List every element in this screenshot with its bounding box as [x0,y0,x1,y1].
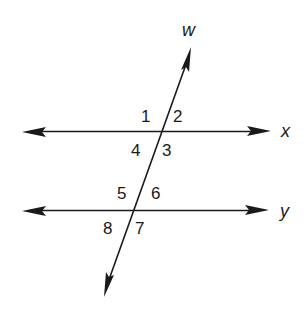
label-x: x [280,121,291,141]
angle-label-2: 2 [173,107,182,126]
line-y [22,205,269,216]
arrowhead-down-icon [104,272,114,297]
angle-label-6: 6 [151,184,160,203]
parallel-lines-diagram: w x y 1 2 3 4 5 6 7 8 [0,0,306,315]
line-w [104,47,191,297]
angle-label-7: 7 [135,219,144,238]
angle-label-4: 4 [131,141,140,160]
arrowhead-up-icon [181,47,191,72]
label-y: y [278,201,290,221]
angle-label-3: 3 [162,141,171,160]
angle-label-1: 1 [141,107,150,126]
line-x [22,126,271,137]
angle-label-5: 5 [117,184,126,203]
angle-label-8: 8 [103,219,112,238]
label-w: w [182,20,196,40]
